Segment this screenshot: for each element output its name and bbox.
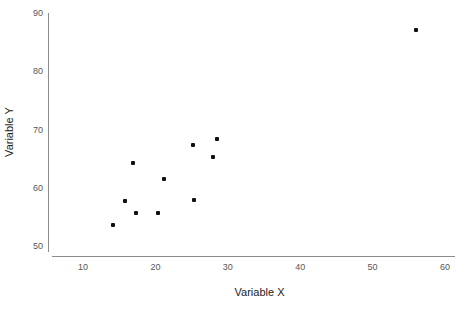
- y-axis-title: Variable Y: [3, 107, 15, 157]
- data-point: [162, 177, 166, 181]
- x-tick-label: 50: [368, 262, 378, 272]
- x-tick-label: 30: [223, 262, 233, 272]
- data-point: [111, 223, 115, 227]
- x-axis-title: Variable X: [0, 286, 467, 298]
- data-point: [414, 28, 418, 32]
- data-point: [191, 143, 195, 147]
- x-tick-label: 40: [295, 262, 305, 272]
- plot-area: [0, 0, 467, 312]
- y-tick-label: 70: [21, 125, 48, 135]
- x-tick-label: 10: [78, 262, 88, 272]
- x-tick-label: 60: [440, 262, 450, 272]
- data-point: [134, 211, 138, 215]
- data-point: [131, 161, 135, 165]
- data-point: [123, 199, 127, 203]
- y-tick-label: 60: [21, 183, 48, 193]
- y-tick-label: 80: [21, 66, 48, 76]
- y-axis-line: [48, 13, 49, 252]
- scatter-chart: 5060708090 102030405060 Variable X Varia…: [0, 0, 467, 312]
- y-tick-label: 90: [21, 8, 48, 18]
- data-point: [192, 198, 196, 202]
- data-point: [156, 211, 160, 215]
- y-tick-label: 50: [21, 241, 48, 251]
- data-point: [211, 155, 215, 159]
- x-tick-label: 20: [150, 262, 160, 272]
- data-point: [215, 137, 219, 141]
- x-axis-line: [52, 256, 455, 257]
